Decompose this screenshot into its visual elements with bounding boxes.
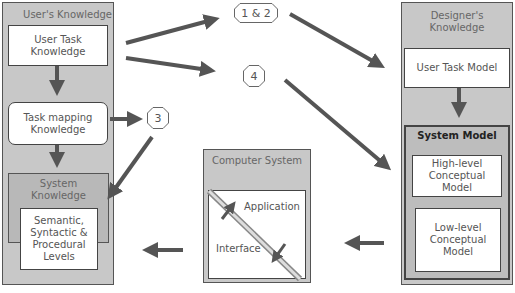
- arrow-to-1-and-2: [126, 20, 212, 43]
- arrow-1-and-2-to-usertaskmodel: [290, 14, 378, 64]
- arrow-to-4: [126, 58, 208, 70]
- arrow-4-to-systemmodel: [285, 80, 385, 165]
- arrow-3-to-systemknowledge: [112, 137, 152, 193]
- arrows-layer: [0, 0, 515, 293]
